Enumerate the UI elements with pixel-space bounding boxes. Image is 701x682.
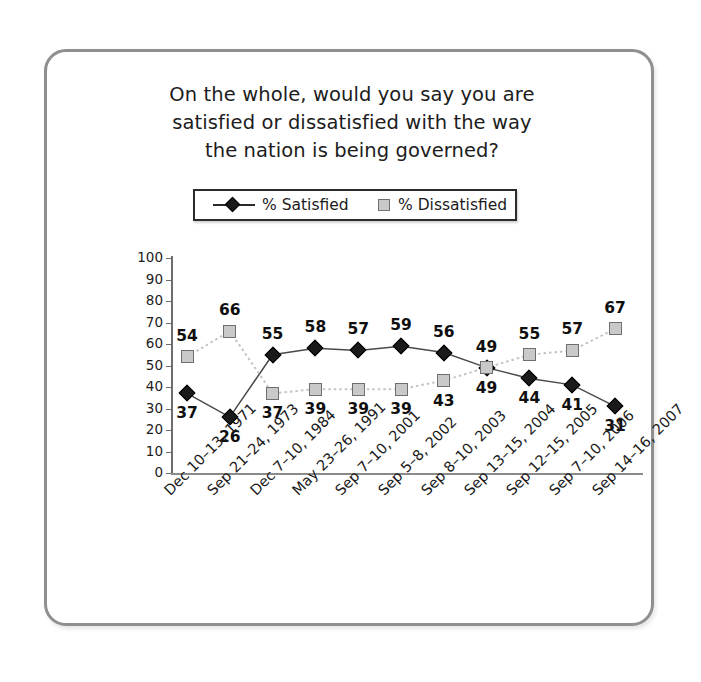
plot-area: 1009080706050403020100 37265558575956494… bbox=[47, 52, 657, 629]
data-value-label: 56 bbox=[421, 323, 467, 341]
data-value-label: 55 bbox=[250, 325, 296, 343]
square-marker-icon bbox=[352, 383, 365, 396]
y-axis-tick-label: 60 bbox=[129, 335, 163, 351]
y-axis-tick-mark bbox=[166, 280, 171, 281]
data-value-label: 54 bbox=[164, 327, 210, 345]
square-marker-icon bbox=[609, 322, 622, 335]
y-axis-tick-mark bbox=[166, 430, 171, 431]
y-axis-tick-mark bbox=[166, 366, 171, 367]
y-axis-line bbox=[171, 256, 173, 474]
y-axis-tick-mark bbox=[166, 473, 171, 474]
y-axis-tick-label: 0 bbox=[129, 464, 163, 480]
y-axis-tick-mark bbox=[166, 387, 171, 388]
y-axis-tick-label: 20 bbox=[129, 421, 163, 437]
square-marker-icon bbox=[309, 383, 322, 396]
y-axis-tick-label: 50 bbox=[129, 357, 163, 373]
y-axis-tick-label: 100 bbox=[129, 249, 163, 265]
data-value-label: 49 bbox=[464, 338, 510, 356]
data-value-label: 57 bbox=[335, 320, 381, 338]
data-value-label: 49 bbox=[464, 379, 510, 397]
data-value-label: 67 bbox=[592, 299, 638, 317]
data-value-label: 55 bbox=[506, 325, 552, 343]
square-marker-icon bbox=[223, 325, 236, 338]
y-axis-tick-label: 90 bbox=[129, 271, 163, 287]
y-axis-tick-label: 30 bbox=[129, 400, 163, 416]
chart-card: On the whole, would you say you are sati… bbox=[44, 49, 654, 626]
y-axis-tick-mark bbox=[166, 258, 171, 259]
y-axis-tick-label: 10 bbox=[129, 443, 163, 459]
square-marker-icon bbox=[181, 350, 194, 363]
data-value-label: 57 bbox=[549, 320, 595, 338]
y-axis-tick-mark bbox=[166, 301, 171, 302]
square-marker-icon bbox=[266, 387, 279, 400]
data-value-label: 43 bbox=[421, 392, 467, 410]
y-axis-tick-label: 40 bbox=[129, 378, 163, 394]
square-marker-icon bbox=[395, 383, 408, 396]
square-marker-icon bbox=[480, 361, 493, 374]
data-value-label: 66 bbox=[207, 301, 253, 319]
y-axis-tick-label: 80 bbox=[129, 292, 163, 308]
square-marker-icon bbox=[437, 374, 450, 387]
square-marker-icon bbox=[523, 348, 536, 361]
square-marker-icon bbox=[566, 344, 579, 357]
data-value-label: 58 bbox=[292, 318, 338, 336]
y-axis-tick-mark bbox=[166, 452, 171, 453]
data-value-label: 59 bbox=[378, 316, 424, 334]
y-axis-tick-label: 70 bbox=[129, 314, 163, 330]
data-value-label: 37 bbox=[164, 404, 210, 422]
y-axis-tick-mark bbox=[166, 323, 171, 324]
